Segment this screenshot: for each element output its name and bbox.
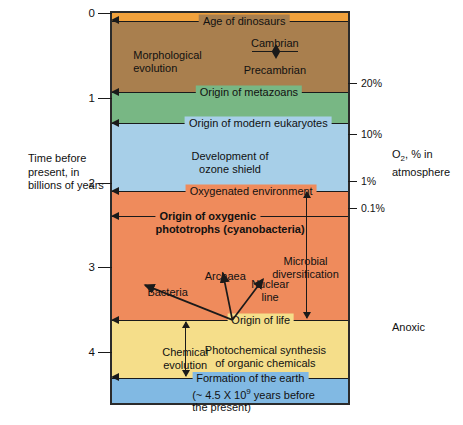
right-tick-0.1%: [348, 208, 357, 209]
y-tick-label-2: 2: [89, 177, 95, 189]
nuclear-line-arrow: [232, 279, 263, 320]
right-tick-20%: [348, 83, 357, 84]
left-axis-caption-line3: billions of years: [28, 179, 108, 193]
y-tick-2: [98, 183, 112, 184]
right-tick-label-1%: 1%: [361, 175, 376, 187]
y-tick-label-3: 3: [89, 261, 95, 273]
archaea-arrow: [223, 273, 232, 320]
y-tick-4: [98, 352, 112, 353]
left-axis-caption: Time before present, in billions of year…: [28, 152, 108, 193]
y-tick-label-1: 1: [89, 92, 95, 104]
o2-axis-caption-line1: O2, % in: [392, 148, 458, 166]
y-tick-3: [98, 267, 112, 268]
o2-axis-caption-line2: atmosphere: [392, 166, 458, 180]
o2-axis-caption: O2, % in atmosphere: [392, 148, 458, 179]
right-tick-label-0.1%: 0.1%: [361, 202, 385, 214]
y-tick-label-4: 4: [89, 346, 95, 358]
left-axis-caption-line2: present, in: [28, 166, 108, 180]
right-tick-1%: [348, 181, 357, 182]
right-tick-label-10%: 10%: [361, 128, 382, 140]
right-tick-label-20%: 20%: [361, 77, 382, 89]
event-label-line3: the present): [192, 401, 315, 414]
timeline-plot: 01234 20%10%1%0.1% Age of dinosaursOrigi…: [110, 11, 350, 405]
bacteria-arrow: [145, 285, 232, 320]
left-axis-caption-line1: Time before: [28, 152, 108, 166]
anoxic-label: Anoxic: [392, 321, 425, 333]
evolution-timeline-figure: Time before present, in billions of year…: [0, 0, 463, 425]
origin-of-life-arrows: [112, 13, 348, 403]
right-tick-10%: [348, 134, 357, 135]
y-tick-0: [98, 13, 112, 14]
y-tick-1: [98, 98, 112, 99]
y-tick-label-0: 0: [89, 7, 95, 19]
